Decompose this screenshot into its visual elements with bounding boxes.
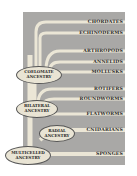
node-coelomate-ancestry: COELOMATEANCESTRY — [16, 66, 62, 84]
taxon-roundworms: ROUNDWORMS — [80, 96, 123, 101]
taxon-chordates: CHORDATES — [88, 19, 123, 24]
taxon-annelids: ANNELIDS — [93, 59, 123, 64]
taxon-mollusks: MOLLUSKS — [91, 69, 123, 74]
taxon-echinoderms: ECHINODERMS — [79, 30, 123, 35]
taxon-cnidarians: CNIDARIANS — [86, 127, 123, 132]
taxon-sponges: SPONGES — [96, 151, 123, 156]
node-multicelled-ancestry: MULTICELLEDANCESTRY — [5, 146, 51, 165]
node-radial-ancestry: RADIALANCESTRY — [39, 125, 75, 142]
node-bilateral-ancestry: BILATERALANCESTRY — [16, 100, 58, 118]
taxon-flatworms: FLATWORMS — [87, 111, 123, 116]
taxon-arthropods: ARTHROPODS — [83, 48, 123, 53]
taxon-rotifers: ROTIFERS — [94, 86, 123, 91]
